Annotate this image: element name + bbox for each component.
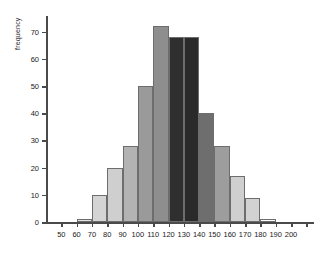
y-tick-mark (42, 195, 47, 197)
x-tick-mark (199, 222, 201, 227)
y-tick-label: 50 (22, 82, 39, 91)
bars-layer (46, 18, 314, 222)
x-tick-mark (153, 222, 155, 227)
x-tick-mark (169, 222, 171, 227)
y-tick-mark (42, 113, 47, 115)
histogram-chart: frequency 010203040506070 50607080901001… (0, 0, 336, 256)
x-tick-mark (107, 222, 109, 227)
x-tick-mark (184, 222, 186, 227)
y-tick-label: 0 (22, 218, 39, 227)
histogram-bar (199, 113, 214, 222)
histogram-bar (123, 146, 138, 222)
y-tick-mark (42, 140, 47, 142)
x-tick-label: 200 (280, 230, 302, 239)
histogram-bar (245, 198, 260, 222)
histogram-bar (77, 219, 92, 222)
histogram-bar (92, 195, 107, 222)
x-tick-mark (61, 222, 63, 227)
histogram-bar (214, 146, 229, 222)
histogram-bar (230, 176, 245, 222)
x-tick-mark (214, 222, 216, 227)
y-tick-mark (42, 168, 47, 170)
y-tick-mark (42, 86, 47, 88)
x-tick-mark (276, 222, 278, 227)
x-tick-mark (260, 222, 262, 227)
x-tick-mark (291, 222, 293, 227)
y-tick-mark (42, 59, 47, 61)
y-axis-label: frequency (14, 0, 21, 50)
y-tick-mark (42, 32, 47, 34)
y-tick-label: 10 (22, 191, 39, 200)
y-tick-mark (42, 222, 47, 224)
y-tick-label: 70 (22, 28, 39, 37)
histogram-bar (138, 86, 153, 222)
y-tick-label: 30 (22, 136, 39, 145)
histogram-bar (184, 37, 199, 222)
x-axis-line (42, 222, 314, 224)
y-tick-label: 20 (22, 164, 39, 173)
x-tick-mark (230, 222, 232, 227)
histogram-bar (169, 37, 184, 222)
x-tick-mark (138, 222, 140, 227)
y-tick-label: 40 (22, 109, 39, 118)
x-tick-mark (123, 222, 125, 227)
x-tick-mark (77, 222, 79, 227)
x-tick-mark (245, 222, 247, 227)
histogram-bar (107, 168, 122, 222)
histogram-bar (153, 26, 168, 222)
plot-area: 010203040506070 506070809010011012013014… (46, 18, 314, 222)
x-tick-mark (306, 222, 308, 227)
histogram-bar (260, 219, 275, 222)
x-tick-mark (92, 222, 94, 227)
y-tick-label: 60 (22, 55, 39, 64)
